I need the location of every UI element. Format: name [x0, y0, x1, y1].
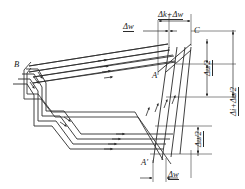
point-label-C: C	[194, 26, 200, 35]
flow-arrow-13	[104, 77, 112, 78]
engineering-diagram: Δk+Δw Δw C A A′ B Δu/2 Δi+Δu/2 Δu/2 Δw	[0, 0, 245, 189]
band-path-1	[27, 68, 163, 160]
step-outline-3	[22, 74, 170, 139]
point-label-A-prime: A′	[141, 158, 148, 167]
extension-lines	[150, 14, 236, 182]
dim-label-delta-i-plus-delta-u-over-2: Δi+Δu/2	[229, 87, 239, 116]
slant-line-4	[180, 47, 191, 154]
chevron-band-1-top	[29, 44, 168, 66]
dim-label-delta-u-over-2-upper: Δu/2	[203, 60, 213, 76]
flow-arrow-16	[164, 100, 167, 108]
point-label-B: B	[14, 60, 19, 69]
dim-label-delta-u-over-2-lower: Δu/2	[194, 131, 204, 147]
flow-arrow-10	[98, 60, 106, 61]
flow-arrow-15	[155, 104, 158, 112]
dim-label-delta-w-top: Δw	[123, 22, 134, 32]
dim-label-delta-w-bottom: Δw	[168, 170, 179, 180]
dim-label-delta-k-plus-delta-w: Δk+Δw	[158, 10, 183, 20]
step-outline-4	[26, 69, 173, 134]
flow-arrow-14	[146, 108, 149, 116]
conductor-paths	[24, 44, 176, 164]
point-label-A: A	[152, 71, 157, 80]
connector-A-C-2	[166, 50, 191, 72]
